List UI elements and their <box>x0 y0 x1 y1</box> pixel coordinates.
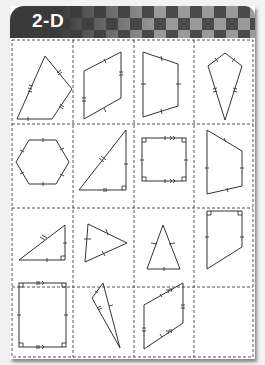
shape-hexagon <box>16 138 69 186</box>
shape-right-triangle-2 <box>19 225 67 262</box>
shape-parallelogram <box>82 52 123 119</box>
shape-rectangle <box>17 281 68 349</box>
shape-pentagon <box>17 56 72 121</box>
shape-kite <box>208 53 242 120</box>
shape-trapezoid <box>141 52 181 117</box>
grid-lines <box>12 40 253 357</box>
shapes-grid <box>0 0 265 365</box>
shape-isosceles-triangle <box>147 225 180 271</box>
shape-scalene-triangle <box>84 224 127 262</box>
shape-parallelogram-2 <box>142 283 185 349</box>
shape-square <box>140 136 188 183</box>
shape-obtuse-triangle <box>92 283 120 348</box>
shape-right-triangle-1 <box>79 130 128 192</box>
shape-right-trapezoid-1 <box>205 130 244 194</box>
shape-right-trapezoid-2 <box>205 211 244 269</box>
